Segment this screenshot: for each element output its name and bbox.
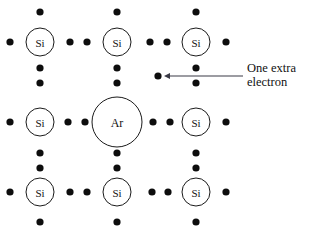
electron-row2-bond-b-left <box>149 118 156 125</box>
si-top-left-label: Si <box>35 37 44 49</box>
ar-center: Ar <box>92 97 142 147</box>
electron-row2-bond-a-left <box>64 118 71 125</box>
electron-row3-bond-b-left <box>148 188 155 195</box>
electron-row2-far-left <box>6 118 13 125</box>
electron-top-center-above <box>113 8 120 15</box>
electron-row3-bond-b-right <box>164 188 171 195</box>
annotation-label-line-1: One extra <box>247 61 296 75</box>
si-top-left: Si <box>26 28 54 56</box>
annotation-label-line-2: electron <box>247 75 288 89</box>
si-top-right-label: Si <box>191 37 200 49</box>
electron-bottom-center-below <box>113 218 120 225</box>
electron-top-right-above <box>192 8 199 15</box>
electron-row2-far-right <box>222 118 229 125</box>
electron-row1-bond-a-right <box>83 38 90 45</box>
ar-center-label: Ar <box>111 116 124 130</box>
electron-col2-upper-bond-bottom <box>113 79 120 86</box>
si-bottom-center-label: Si <box>112 187 121 199</box>
electron-col3-upper-bond-bottom <box>192 79 199 86</box>
si-middle-right: Si <box>182 108 210 136</box>
electron-row1-far-left <box>6 38 13 45</box>
electron-col2-lower-bond-top <box>113 149 120 156</box>
si-middle-right-label: Si <box>191 117 200 129</box>
electron-top-left-above <box>36 8 43 15</box>
electron-row1-bond-b-right <box>163 38 170 45</box>
si-middle-left: Si <box>26 108 54 136</box>
lattice-canvas: SiSiSiSiArSiSiSiSi One extraelectron <box>0 0 315 236</box>
electron-row1-bond-a-left <box>66 38 73 45</box>
si-top-center-label: Si <box>112 37 121 49</box>
electron-row3-far-left <box>6 188 13 195</box>
si-bottom-left: Si <box>26 178 54 206</box>
electron-col2-upper-bond-top <box>113 64 120 71</box>
electron-col1-lower-bond-top <box>36 149 43 156</box>
electron-col1-upper-bond-bottom <box>36 79 43 86</box>
electron-row2-bond-a-right <box>81 118 88 125</box>
electron-row1-bond-b-left <box>146 38 153 45</box>
electron-col1-upper-bond-top <box>36 64 43 71</box>
electron-row3-bond-a-left <box>66 188 73 195</box>
electron-col3-lower-bond-top <box>192 149 199 156</box>
atoms-layer: SiSiSiSiArSiSiSiSi <box>26 28 210 206</box>
si-bottom-center: Si <box>103 178 131 206</box>
annotation-arrowhead-icon <box>164 73 170 79</box>
electron-row1-far-right <box>222 38 229 45</box>
si-bottom-left-label: Si <box>35 187 44 199</box>
electron-bottom-left-below <box>36 218 43 225</box>
electron-row3-far-right <box>222 188 229 195</box>
electron-col3-upper-bond-top <box>192 64 199 71</box>
electron-col2-lower-bond-bottom <box>113 164 120 171</box>
si-top-right: Si <box>182 28 210 56</box>
si-top-center: Si <box>103 28 131 56</box>
si-bottom-right-label: Si <box>191 187 200 199</box>
extra-electron-annotation: One extraelectron <box>164 61 296 89</box>
electron-col3-lower-bond-bottom <box>192 164 199 171</box>
electron-bottom-right-below <box>192 218 199 225</box>
silicon-lattice-diagram: SiSiSiSiArSiSiSiSi One extraelectron <box>0 0 315 236</box>
electron-row2-bond-b-right <box>166 118 173 125</box>
si-middle-left-label: Si <box>35 117 44 129</box>
electron-col1-lower-bond-bottom <box>36 164 43 171</box>
electron-extra <box>154 72 161 79</box>
si-bottom-right: Si <box>182 178 210 206</box>
electron-row3-bond-a-right <box>83 188 90 195</box>
